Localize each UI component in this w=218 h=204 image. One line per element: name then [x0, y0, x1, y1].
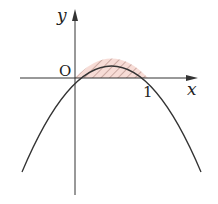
y-axis-label: y [56, 5, 67, 25]
x-tick-label: 1 [143, 83, 153, 101]
parabola-area-diagram: y O 1 x [0, 0, 218, 204]
origin-label: O [59, 62, 71, 80]
parabola-curve [22, 66, 201, 172]
y-axis-arrow-icon [72, 9, 78, 21]
x-axis-label: x [187, 79, 197, 99]
